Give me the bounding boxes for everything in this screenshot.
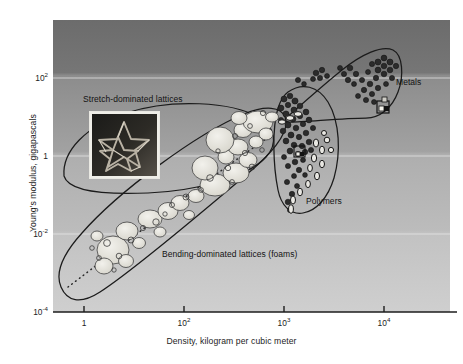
y-axis-title: Young's modulus, gigapascals: [28, 88, 38, 258]
x-tick-label-1e2: 102: [178, 318, 191, 328]
annotation-metals: Metals: [396, 77, 421, 87]
annotation-stretch-dominated-lattices: Stretch-dominated lattices: [83, 94, 183, 104]
annotation-polymers: Polymers: [306, 196, 342, 206]
x-tick-label-1e4: 104: [378, 318, 391, 328]
chart-canvas: [0, 0, 463, 364]
annotation-bending-dominated-foams: Bending-dominated lattices (foams): [162, 249, 297, 259]
ashby-material-chart: 102 1 10-2 10-4 1 102 103 104 Density, k…: [0, 0, 463, 364]
x-tick-label-1e3: 103: [278, 318, 291, 328]
y-tick-label-1e-4: 10-4: [8, 307, 48, 317]
x-tick-label-1: 1: [82, 318, 87, 328]
x-axis-title: Density, kilogram per cubic meter: [0, 336, 463, 346]
y-tick-label-1e2: 102: [8, 73, 48, 83]
stretch-lattice-inset-photo: [89, 111, 160, 179]
